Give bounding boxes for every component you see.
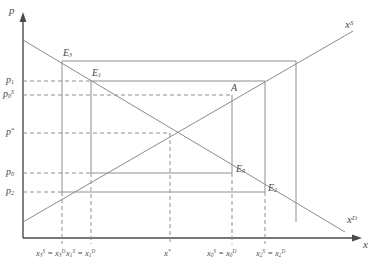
price-tick-p2: p2 — [6, 185, 14, 196]
quantity-tick-x1: x1S = x1D — [66, 248, 95, 258]
point-label-e2: E2 — [268, 182, 277, 193]
quantity-tick-x0: x0S = x0D — [207, 248, 236, 258]
cobweb-diagram-figure: p x xS xD p1 p0S p* p0 p2 x3S = x3D x1S … — [0, 0, 383, 271]
price-tick-p0: p0 — [6, 166, 14, 177]
y-axis-label: p — [9, 4, 15, 16]
supply-curve — [23, 31, 353, 222]
price-tick-pstar: p* — [6, 126, 14, 137]
diagram-canvas — [0, 0, 383, 271]
price-tick-p1: p1 — [6, 74, 14, 85]
quantity-tick-xstar: x* — [164, 248, 171, 258]
demand-curve — [23, 40, 345, 232]
point-label-e0: E0 — [236, 163, 245, 174]
point-label-e1: E1 — [92, 67, 101, 78]
price-tick-p0s: p0S — [3, 88, 14, 99]
x-axis-label: x — [363, 238, 368, 250]
quantity-tick-x3: x3S = x3D — [36, 248, 65, 258]
supply-curve-label: xS — [345, 18, 353, 30]
point-label-a: A — [231, 82, 237, 93]
quantity-tick-x2: x2S = x2D — [256, 248, 285, 258]
x-axis-arrow — [352, 235, 362, 242]
demand-curve-label: xD — [347, 213, 357, 225]
cobweb-path-group — [62, 61, 296, 222]
y-axis-arrow — [20, 12, 27, 22]
point-label-e3: E3 — [63, 47, 72, 58]
